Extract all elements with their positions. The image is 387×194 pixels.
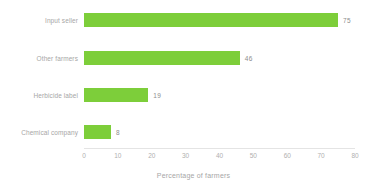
bar-herbicide-label[interactable] (84, 88, 148, 102)
x-axis-title: Percentage of farmers (0, 172, 387, 179)
x-tick-10: 10 (114, 152, 121, 159)
x-tick-0: 0 (82, 152, 86, 159)
bar-value-other-farmers: 46 (245, 55, 253, 62)
plot-area: 75 46 19 8 (84, 6, 355, 148)
x-tick-80: 80 (351, 152, 358, 159)
bar-other-farmers[interactable] (84, 51, 240, 65)
x-tick-50: 50 (250, 152, 257, 159)
category-label-herbicide-label: Herbicide label (34, 92, 79, 99)
x-axis-ticks: 01020304050607080 (84, 152, 355, 164)
x-tick-60: 60 (284, 152, 291, 159)
bar-row: 46 (84, 51, 355, 65)
category-label-input-seller: Input seller (45, 17, 78, 24)
category-label-row: Herbicide label (0, 88, 78, 102)
bar-row: 19 (84, 88, 355, 102)
x-axis-line (84, 148, 355, 149)
bar-value-input-seller: 75 (343, 17, 351, 24)
x-tick-40: 40 (216, 152, 223, 159)
bar-row: 8 (84, 125, 355, 139)
category-label-row: Chemical company (0, 125, 78, 139)
bar-value-chemical-company: 8 (116, 129, 120, 136)
x-tick-20: 20 (148, 152, 155, 159)
category-label-other-farmers: Other farmers (37, 55, 78, 62)
category-label-row: Input seller (0, 13, 78, 27)
category-label-row: Other farmers (0, 51, 78, 65)
bar-row: 75 (84, 13, 355, 27)
x-tick-30: 30 (182, 152, 189, 159)
category-label-chemical-company: Chemical company (21, 129, 78, 136)
bar-input-seller[interactable] (84, 13, 338, 27)
bar-chart: Input seller Other farmers Herbicide lab… (0, 0, 387, 194)
x-tick-70: 70 (318, 152, 325, 159)
bar-value-herbicide-label: 19 (153, 92, 161, 99)
bar-chemical-company[interactable] (84, 125, 111, 139)
